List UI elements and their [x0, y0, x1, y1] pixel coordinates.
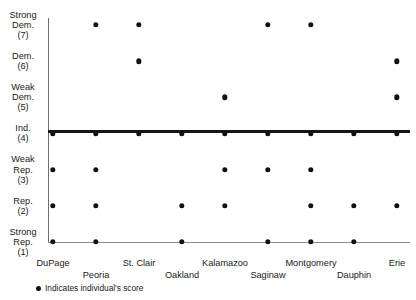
- y-axis-tick-line: (2): [0, 206, 46, 216]
- data-point: [93, 22, 98, 27]
- legend-label: Indicates individual's score: [45, 283, 143, 293]
- y-axis-tick-line: (4): [0, 133, 46, 143]
- data-point: [351, 203, 356, 208]
- y-axis-tick-2: Rep.(2): [0, 196, 46, 217]
- data-point: [308, 167, 313, 172]
- y-axis-tick-line: Strong: [0, 227, 46, 237]
- data-point: [136, 58, 141, 63]
- data-point: [265, 167, 270, 172]
- data-point: [394, 131, 399, 136]
- data-point: [222, 131, 227, 136]
- x-axis-label-dupage: DuPage: [36, 258, 69, 268]
- y-axis-tick-line: Strong: [0, 10, 46, 20]
- chart-title: PARTY IDENTIFICATION SCORES FOR COUNTY P…: [103, 0, 413, 2]
- data-point: [50, 239, 55, 244]
- data-point: [308, 239, 313, 244]
- data-point: [351, 239, 356, 244]
- y-axis-tick-line: (5): [0, 102, 46, 112]
- data-point: [136, 131, 141, 136]
- y-axis-tick-line: Dem.: [0, 92, 46, 102]
- y-axis-tick-line: (3): [0, 175, 46, 185]
- y-axis-tick-5: WeakDem.(5): [0, 82, 46, 113]
- y-axis-tick-line: (6): [0, 61, 46, 71]
- x-axis-label-oakland: Oakland: [165, 270, 199, 280]
- y-axis-tick-line: Dem.: [0, 51, 46, 61]
- data-point: [179, 239, 184, 244]
- legend: Indicates individual's score: [36, 283, 143, 293]
- y-axis-tick-line: Rep.: [0, 237, 46, 247]
- x-axis-label-kalamazoo: Kalamazoo: [202, 258, 248, 268]
- y-axis-tick-line: Rep.: [0, 196, 46, 206]
- y-axis-tick-3: WeakRep.(3): [0, 154, 46, 185]
- y-axis-tick-line: Weak: [0, 154, 46, 164]
- data-point: [265, 22, 270, 27]
- y-axis-tick-line: (1): [0, 247, 46, 257]
- data-point: [265, 239, 270, 244]
- y-axis-tick-4: Ind.(4): [0, 123, 46, 144]
- data-point: [394, 95, 399, 100]
- data-point: [50, 131, 55, 136]
- data-point: [179, 131, 184, 136]
- x-axis-label-st-clair: St. Clair: [123, 258, 156, 268]
- data-point: [222, 203, 227, 208]
- y-axis-tick-line: (7): [0, 30, 46, 40]
- data-point: [222, 95, 227, 100]
- data-point: [394, 203, 399, 208]
- data-point: [308, 203, 313, 208]
- legend-dot-icon: [36, 286, 41, 291]
- page-number: 103: [396, 0, 409, 2]
- x-axis-label-erie: Erie: [389, 258, 405, 268]
- data-point: [93, 167, 98, 172]
- x-axis-label-peoria: Peoria: [83, 270, 110, 280]
- data-point: [50, 203, 55, 208]
- y-axis-tick-7: StrongDem.(7): [0, 10, 46, 41]
- x-axis-label-montgomery: Montgomery: [285, 258, 336, 268]
- data-point: [351, 131, 356, 136]
- data-point: [394, 58, 399, 63]
- data-point: [136, 22, 141, 27]
- y-axis-tick-line: Dem.: [0, 20, 46, 30]
- data-point: [93, 239, 98, 244]
- clipped-title-strip: PARTY IDENTIFICATION SCORES FOR COUNTY P…: [0, 0, 416, 7]
- y-axis-tick-1: StrongRep.(1): [0, 227, 46, 258]
- data-point: [308, 131, 313, 136]
- y-axis-tick-line: Rep.: [0, 165, 46, 175]
- data-point: [179, 203, 184, 208]
- data-point: [93, 203, 98, 208]
- data-point: [308, 22, 313, 27]
- data-point: [222, 167, 227, 172]
- data-point: [265, 131, 270, 136]
- x-axis-label-dauphin: Dauphin: [337, 270, 371, 280]
- x-axis-label-saginaw: Saginaw: [250, 270, 285, 280]
- chart-container: PARTY IDENTIFICATION SCORES FOR COUNTY P…: [0, 0, 416, 300]
- y-axis-tick-6: Dem.(6): [0, 51, 46, 72]
- y-axis-tick-line: Ind.: [0, 123, 46, 133]
- data-point: [50, 167, 55, 172]
- data-point: [93, 131, 98, 136]
- y-axis-tick-line: Weak: [0, 82, 46, 92]
